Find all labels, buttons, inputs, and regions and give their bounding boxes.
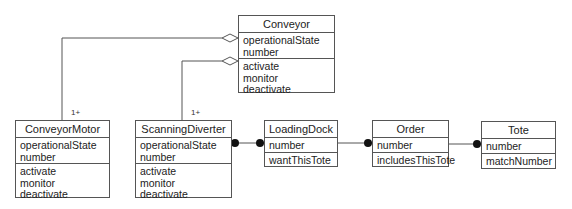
class-order: Order number includesThisTote [372,120,449,167]
operation: includesThisTote [377,155,448,167]
attributes-section: operationalState number [239,33,334,59]
operation: deactivate [140,189,231,201]
attribute: operationalState [20,140,109,152]
attribute: number [377,140,448,152]
operation: activate [243,61,334,73]
class-scanning-diverter: ScanningDiverter operationalState number… [135,120,232,198]
operation: deactivate [20,189,109,201]
multiplicity-motor: 1+ [71,108,80,117]
attribute: operationalState [243,35,334,47]
operation: wantThisTote [269,155,337,167]
attributes-section: number [373,138,448,153]
class-name: ScanningDiverter [136,121,231,138]
class-name: Order [373,121,448,138]
dot-dock-end-icon [256,139,264,147]
attribute: number [243,47,334,59]
class-name: Tote [482,122,555,139]
operations-section: matchNumber [482,154,555,170]
dot-tote-end-icon [473,140,481,148]
aggregation-diamond-diverter-icon [222,57,238,65]
class-conveyor-motor: ConveyorMotor operationalState number ac… [15,120,110,198]
operations-section: wantThisTote [265,153,337,169]
attributes-section: operationalState number [136,138,231,164]
operation: matchNumber [486,156,555,168]
attribute: number [486,141,555,153]
aggregation-diamond-motor-icon [222,34,238,42]
attributes-section: number [265,138,337,153]
multiplicity-diverter: 1+ [191,108,200,117]
attributes-section: operationalState number [16,138,109,164]
operation: deactivate [243,84,334,96]
operations-section: activate monitor deactivate [239,59,334,98]
attributes-section: number [482,139,555,154]
class-conveyor: Conveyor operationalState number activat… [238,15,335,93]
class-loading-dock: LoadingDock number wantThisTote [264,120,338,167]
class-name: Conveyor [239,16,334,33]
operation: activate [140,166,231,178]
attribute: number [20,152,109,164]
class-name: ConveyorMotor [16,121,109,138]
operations-section: activate monitor deactivate [16,164,109,203]
attribute: operationalState [140,140,231,152]
class-tote: Tote number matchNumber [481,121,556,169]
class-name: LoadingDock [265,121,337,138]
operations-section: includesThisTote [373,153,448,169]
attribute: number [269,140,337,152]
dot-order-end-icon [364,139,372,147]
aggregation-line-diverter [182,61,222,120]
dot-diverter-end-icon [231,139,239,147]
operations-section: activate monitor deactivate [136,164,231,203]
attribute: number [140,152,231,164]
operation: activate [20,166,109,178]
